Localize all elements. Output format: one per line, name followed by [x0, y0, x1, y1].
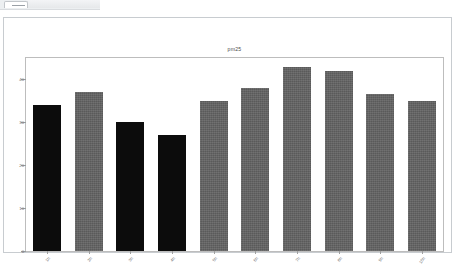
y-tick-label: 30: [19, 120, 24, 125]
x-tick-mark: [89, 251, 90, 254]
x-tick-label: 9h: [378, 256, 385, 263]
x-tick-mark: [47, 251, 48, 254]
x-tick-mark: [422, 251, 423, 254]
bar[interactable]: [75, 92, 103, 251]
x-tick-mark: [214, 251, 215, 254]
x-tick-label: 10h: [418, 256, 426, 265]
bar[interactable]: [283, 67, 311, 251]
y-tick-label: 40: [19, 77, 24, 82]
x-tick-mark: [297, 251, 298, 254]
bar[interactable]: [408, 101, 436, 251]
browser-chrome-fragment: [0, 0, 100, 10]
x-tick-mark: [172, 251, 173, 254]
y-tick-label: 10: [19, 206, 24, 211]
document-card: pm25 010203040 1h2h3h4h5h6h7h8h9h10h: [3, 17, 452, 253]
bar[interactable]: [241, 88, 269, 251]
bar[interactable]: [200, 101, 228, 251]
bar[interactable]: [366, 94, 394, 251]
tab-title-placeholder: [12, 5, 25, 6]
x-tick-label: 6h: [253, 256, 260, 263]
x-tick-label: 1h: [44, 256, 51, 263]
bar[interactable]: [158, 135, 186, 251]
y-tick-label: 0: [22, 249, 24, 254]
x-tick-mark: [255, 251, 256, 254]
plot-area: 010203040 1h2h3h4h5h6h7h8h9h10h: [26, 58, 443, 251]
y-tick-label: 20: [19, 163, 24, 168]
x-tick-mark: [339, 251, 340, 254]
x-tick-mark: [130, 251, 131, 254]
x-tick-label: 8h: [336, 256, 343, 263]
browser-tab[interactable]: [4, 1, 28, 8]
x-tick-label: 7h: [294, 256, 301, 263]
x-tick-label: 3h: [128, 256, 135, 263]
bar[interactable]: [116, 122, 144, 251]
chrome-toolbar-strip: [26, 0, 100, 8]
x-tick-label: 2h: [86, 256, 93, 263]
x-tick-mark: [380, 251, 381, 254]
chart-figure: pm25 010203040 1h2h3h4h5h6h7h8h9h10h: [25, 57, 444, 252]
bar[interactable]: [33, 105, 61, 251]
x-tick-label: 5h: [211, 256, 218, 263]
x-tick-label: 4h: [169, 256, 176, 263]
bar[interactable]: [325, 71, 353, 251]
chart-title: pm25: [25, 46, 444, 53]
